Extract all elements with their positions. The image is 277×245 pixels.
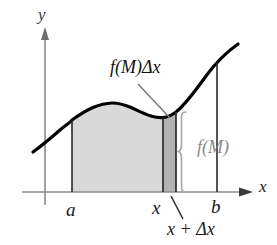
- leader-line-x-plus-dx: [171, 196, 183, 219]
- tick-label-a: a: [66, 200, 76, 219]
- x-axis-label: x: [259, 178, 267, 195]
- tick-label-x-plus-delta-x: x + Δx: [167, 220, 215, 238]
- figure-container: y x a b x f(M)Δx f(M) x + Δx: [0, 0, 277, 245]
- y-axis-arrowhead: [41, 27, 49, 40]
- x-axis-arrowhead: [239, 188, 253, 197]
- height-brace: [179, 112, 187, 192]
- tick-label-x: x: [152, 198, 160, 217]
- annotation-rect-area: f(M)Δx: [110, 58, 161, 76]
- annotation-rect-height: f(M): [197, 138, 229, 156]
- riemann-strip-rectangle: [163, 112, 176, 192]
- tick-label-b: b: [211, 197, 221, 216]
- y-axis-label: y: [38, 6, 46, 23]
- riemann-sum-figure: [0, 0, 277, 245]
